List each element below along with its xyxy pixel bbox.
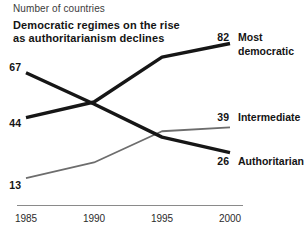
end-value-label-authoritarian: 26 xyxy=(217,155,229,167)
series-name-label-intermediate: Intermediate xyxy=(238,111,301,123)
end-value-label-intermediate: 39 xyxy=(217,111,229,123)
series-name-label-most-democratic: Mostdemocratic xyxy=(238,31,294,58)
line-chart: 19851990199520004482Mostdemocratic1339In… xyxy=(0,0,306,234)
series-line-most-democratic xyxy=(26,44,230,118)
series-line-authoritarian xyxy=(26,73,230,153)
end-value-label-most-democratic: 82 xyxy=(217,31,229,43)
x-tick-label-1990: 1990 xyxy=(83,213,106,224)
series-name-label-authoritarian: Authoritarian xyxy=(238,155,304,167)
start-value-label-most-democratic: 44 xyxy=(9,117,21,129)
start-value-label-authoritarian: 67 xyxy=(9,61,21,73)
x-tick-label-2000: 2000 xyxy=(219,213,242,224)
x-tick-label-1985: 1985 xyxy=(15,213,38,224)
series-line-intermediate xyxy=(26,127,230,178)
chart-panel: Number of countries Democratic regimes o… xyxy=(0,0,306,234)
start-value-label-intermediate: 13 xyxy=(9,179,21,191)
x-tick-label-1995: 1995 xyxy=(151,213,174,224)
